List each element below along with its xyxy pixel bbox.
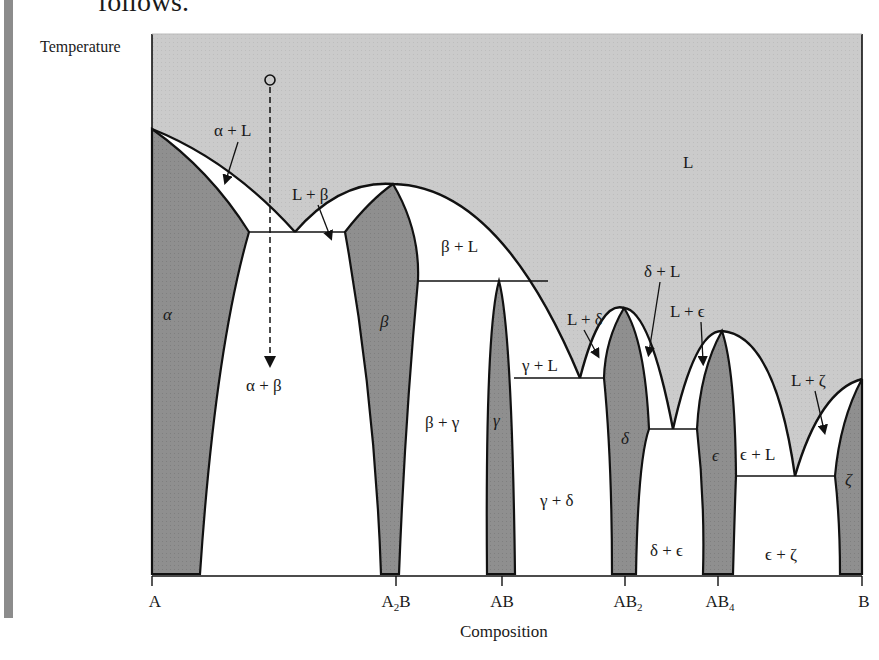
label-delta-plus-liquid: δ + L — [644, 262, 680, 281]
label-alpha: α — [163, 305, 173, 324]
label-beta-plus-gamma: β + γ — [425, 413, 460, 432]
phase-diagram: L α β γ δ ϵ ζ α + L L + β β + L γ + L L … — [0, 0, 879, 660]
label-beta: β — [379, 312, 389, 331]
label-beta-plus-liquid: β + L — [441, 237, 478, 256]
x-ticks — [152, 576, 862, 586]
label-gamma-plus-liquid: γ + L — [521, 356, 558, 375]
x-tick-A2B: A2B — [381, 592, 410, 613]
label-delta: δ — [621, 429, 630, 448]
label-liquid-plus-epsilon: L + ϵ — [670, 302, 705, 321]
label-epsilon-plus-liquid: ϵ + L — [740, 445, 775, 464]
label-liquid-plus-beta: L + β — [292, 185, 329, 204]
label-delta-plus-epsilon: δ + ϵ — [650, 541, 683, 560]
x-tick-AB2: AB2 — [613, 592, 642, 613]
label-epsilon: ϵ — [712, 446, 720, 465]
x-tick-AB: AB — [490, 592, 514, 612]
label-alpha-plus-liquid: α + L — [214, 121, 251, 140]
label-liquid-plus-zeta: L + ζ — [791, 371, 826, 390]
label-liquid-plus-delta: L + δ — [567, 310, 603, 329]
x-tick-AB4: AB4 — [705, 592, 734, 613]
x-axis-label: Composition — [460, 622, 548, 642]
x-tick-A: A — [149, 592, 161, 612]
label-gamma-plus-delta: γ + δ — [539, 491, 574, 510]
label-epsilon-plus-zeta: ϵ + ζ — [765, 545, 797, 564]
label-alpha-plus-beta: α + β — [246, 376, 282, 395]
x-tick-B: B — [858, 592, 869, 612]
label-zeta: ζ — [845, 470, 853, 489]
label-liquid: L — [683, 153, 693, 172]
